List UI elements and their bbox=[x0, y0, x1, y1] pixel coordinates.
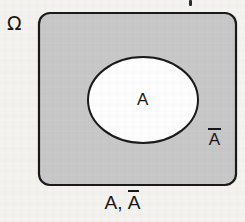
universal-set-label: Ω bbox=[7, 14, 22, 33]
venn-diagram-figure: Ω A A A, A bbox=[0, 0, 245, 222]
caption-content: A, A bbox=[105, 193, 141, 212]
caption-complement-text: A bbox=[128, 192, 141, 213]
complement-label: A bbox=[208, 128, 221, 148]
stray-ink-mark bbox=[189, 0, 192, 6]
complement-label-text: A bbox=[209, 130, 220, 149]
caption-overbar-icon bbox=[128, 190, 140, 192]
figure-caption: A, A bbox=[0, 193, 245, 212]
caption-complement: A bbox=[128, 193, 141, 212]
caption-prefix: A, bbox=[105, 192, 123, 213]
set-a-label: A bbox=[137, 91, 148, 108]
venn-diagram-canvas bbox=[0, 0, 245, 222]
